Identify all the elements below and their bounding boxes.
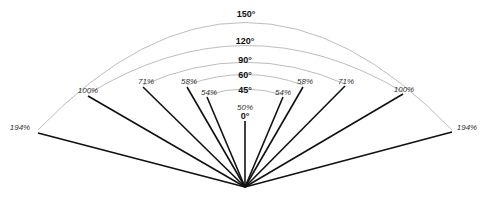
angle-label: 120° — [236, 36, 255, 46]
percent-label: 194% — [457, 123, 477, 132]
zero-angle-label: 0° — [241, 111, 250, 121]
percent-label: 71% — [338, 77, 354, 86]
percent-label: 71% — [138, 77, 154, 86]
percent-label: 54% — [201, 88, 217, 97]
angle-label: 60° — [238, 70, 252, 80]
angle-label: 90° — [238, 55, 252, 65]
percent-label: 54% — [275, 88, 291, 97]
angle-label: 45° — [238, 85, 252, 95]
percent-label: 58% — [181, 77, 197, 86]
percent-label: 100% — [78, 86, 98, 95]
fov-diagram-graphic — [0, 0, 493, 200]
fov-diagram: 150°120°90°60°45°194%100%71%58%54%54%58%… — [0, 0, 493, 200]
percent-label: 194% — [10, 123, 30, 132]
ray-194-right — [245, 132, 452, 187]
ray-194-left — [38, 133, 245, 187]
angle-label: 150° — [237, 9, 256, 19]
percent-label: 58% — [297, 77, 313, 86]
percent-label: 100% — [394, 85, 414, 94]
